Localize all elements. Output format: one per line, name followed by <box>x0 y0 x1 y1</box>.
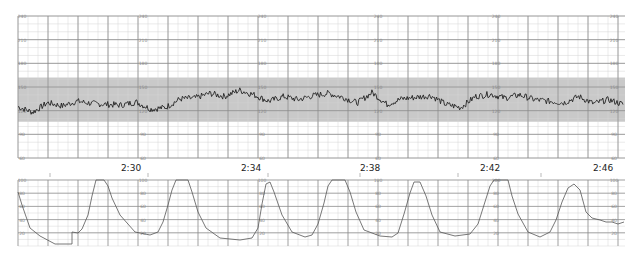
ua-scale-label: 100 <box>610 178 619 183</box>
ua-scale-label: 40 <box>375 218 381 223</box>
fhr-scale-label: 90 <box>375 132 381 137</box>
fhr-scale-label: 210 <box>258 38 267 43</box>
time-label: 2:38 <box>360 163 380 173</box>
fhr-scale-label: 210 <box>374 38 383 43</box>
ua-scale-label: 80 <box>493 191 499 196</box>
fhr-scale-label: 150 <box>374 85 383 90</box>
fhr-scale-label: 90 <box>493 132 499 137</box>
fhr-scale-label: 120 <box>610 109 619 114</box>
fhr-scale-label: 210 <box>492 38 501 43</box>
fhr-scale-label: 60 <box>375 156 381 161</box>
fhr-scale-label: 240 <box>374 14 383 19</box>
ua-panel: 1008060402010080604020100806040201008060… <box>18 173 625 246</box>
ua-trace <box>18 180 624 244</box>
fhr-scale-label: 150 <box>139 85 148 90</box>
fhr-scale-label: 150 <box>610 85 619 90</box>
fhr-scale-label: 240 <box>18 14 27 19</box>
ctg-strip: 2402101801501209060240210180150120906024… <box>0 0 640 266</box>
fhr-scale-label: 60 <box>611 156 617 161</box>
time-label: 2:30 <box>121 163 141 173</box>
fhr-scale-label: 90 <box>140 132 146 137</box>
ua-scale-label: 60 <box>375 204 381 209</box>
time-label: 2:42 <box>480 163 500 173</box>
fhr-scale-label: 210 <box>139 38 148 43</box>
fhr-scale-label: 60 <box>19 156 25 161</box>
ua-scale-label: 40 <box>19 218 25 223</box>
ua-scale-label: 80 <box>375 191 381 196</box>
fhr-scale-label: 60 <box>259 156 265 161</box>
ua-scale-label: 80 <box>611 191 617 196</box>
fhr-scale-label: 180 <box>492 61 501 66</box>
ua-scale-label: 100 <box>139 178 148 183</box>
fhr-scale-label: 120 <box>258 109 267 114</box>
fhr-scale-label: 240 <box>258 14 267 19</box>
ua-scale-label: 100 <box>374 178 383 183</box>
fhr-scale-label: 90 <box>259 132 265 137</box>
ua-scale-label: 20 <box>611 231 617 236</box>
fhr-scale-label: 180 <box>610 61 619 66</box>
fhr-scale-label: 240 <box>610 14 619 19</box>
fhr-scale-label: 180 <box>258 61 267 66</box>
ua-scale-label: 100 <box>258 178 267 183</box>
fhr-scale-label: 150 <box>258 85 267 90</box>
fhr-scale-label: 150 <box>492 85 501 90</box>
fhr-scale-label: 240 <box>139 14 148 19</box>
ua-scale-label: 80 <box>19 191 25 196</box>
ua-scale-label: 20 <box>493 231 499 236</box>
fhr-scale-label: 120 <box>374 109 383 114</box>
fhr-scale-label: 150 <box>18 85 27 90</box>
ua-scale-label: 60 <box>611 204 617 209</box>
time-label: 2:46 <box>593 163 613 173</box>
ua-scale-label: 40 <box>140 218 146 223</box>
fhr-scale-label: 90 <box>611 132 617 137</box>
fhr-scale-label: 60 <box>140 156 146 161</box>
time-label: 2:34 <box>241 163 261 173</box>
normal-range-band <box>18 78 625 122</box>
ua-scale-label: 100 <box>492 178 501 183</box>
fhr-scale-label: 210 <box>610 38 619 43</box>
ua-scale-label: 40 <box>493 218 499 223</box>
ua-scale-label: 20 <box>19 231 25 236</box>
fhr-scale-label: 120 <box>492 109 501 114</box>
fhr-scale-label: 180 <box>139 61 148 66</box>
fhr-scale-label: 60 <box>493 156 499 161</box>
fhr-scale-label: 180 <box>18 61 27 66</box>
ua-scale-label: 60 <box>493 204 499 209</box>
fhr-panel: 2402101801501209060240210180150120906024… <box>18 14 625 161</box>
fhr-scale-label: 180 <box>374 61 383 66</box>
ua-scale-label: 80 <box>140 191 146 196</box>
fhr-scale-label: 210 <box>18 38 27 43</box>
ua-scale-label: 20 <box>259 231 265 236</box>
fhr-scale-label: 90 <box>19 132 25 137</box>
ua-scale-label: 60 <box>140 204 146 209</box>
ua-scale-label: 100 <box>18 178 27 183</box>
fhr-scale-label: 120 <box>18 109 27 114</box>
fhr-scale-label: 120 <box>139 109 148 114</box>
fhr-scale-label: 240 <box>492 14 501 19</box>
